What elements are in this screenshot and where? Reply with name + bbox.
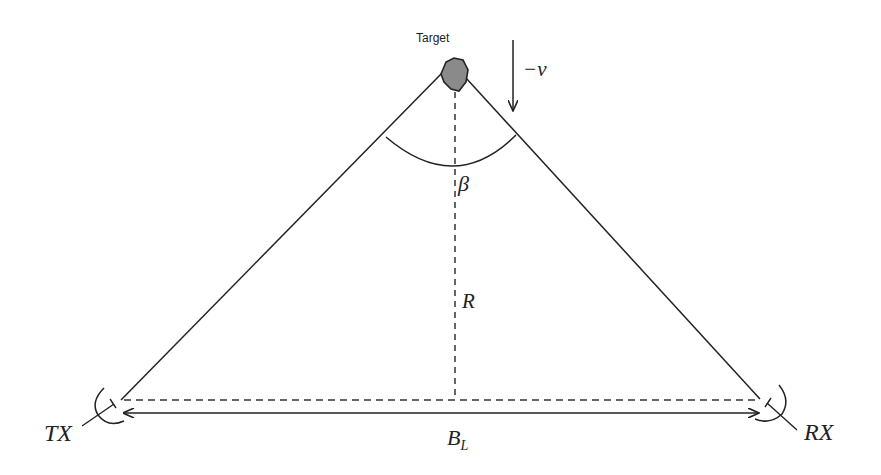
range-label: R — [461, 289, 475, 313]
bistatic-angle-arc — [386, 135, 516, 166]
velocity-label: −v — [523, 57, 547, 81]
bistatic-angle-label: β — [457, 171, 469, 196]
target-rx-line — [466, 78, 760, 399]
tx-antenna-icon — [82, 388, 124, 426]
tx-label: TX — [44, 420, 73, 446]
baseline-label: BL — [447, 425, 468, 453]
rx-label: RX — [803, 419, 835, 445]
target-label: Target — [416, 31, 450, 45]
target-icon — [441, 58, 468, 91]
tx-target-line — [121, 71, 444, 400]
rx-antenna-icon — [755, 385, 797, 430]
baseline-label-subscript: L — [459, 438, 468, 453]
baseline-label-main: B — [447, 425, 460, 450]
bistatic-radar-diagram: Target −v β R BL TX RX — [0, 0, 881, 475]
